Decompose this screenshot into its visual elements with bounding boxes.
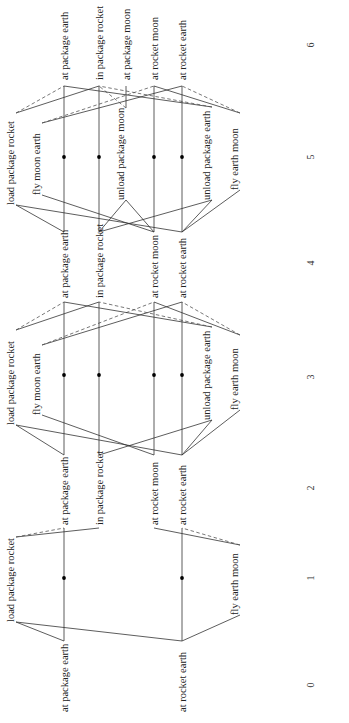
add-effect-edge	[64, 302, 212, 327]
level-number-2: 2	[305, 486, 316, 491]
fact-label-at-rocket-earth-L2: at rocket earth	[177, 464, 188, 525]
fact-label-at-rocket-moon-L6: at rocket moon	[149, 16, 160, 80]
precondition-edge	[42, 415, 154, 455]
action-label-fly-earth-moon-L3: fly earth moon	[229, 347, 240, 410]
delete-effect-edge	[42, 302, 154, 345]
action-label-load-package-rocket-L3: load package rocket	[5, 341, 16, 425]
level-number-1: 1	[305, 576, 316, 581]
action-label-fly-moon-earth-L5: fly moon earth	[31, 132, 42, 195]
action-label-unload-package-moon-L5: unload package moon	[115, 107, 126, 200]
noop-node-dot	[97, 373, 101, 377]
action-label-load-package-rocket-L5: load package rocket	[5, 121, 16, 205]
fact-label-at-rocket-earth-L6: at rocket earth	[177, 19, 188, 80]
delete-effect-edge	[182, 86, 240, 113]
fact-label-at-package-earth-L6: at package earth	[59, 11, 70, 80]
fact-label-at-package-earth-L4: at package earth	[59, 229, 70, 298]
level-number-3: 3	[305, 375, 316, 380]
level-number-4: 4	[305, 261, 316, 266]
action-label-unload-package-earth-L5: unload package earth	[201, 110, 212, 200]
noop-node-dot	[180, 373, 184, 377]
action-label-fly-earth-moon-L1: fly earth moon	[229, 552, 240, 615]
fact-label-in-package-rocket-L6: in package rocket	[94, 6, 105, 80]
precondition-edge	[99, 420, 212, 455]
action-label-load-package-rocket-L1: load package rocket	[5, 538, 16, 622]
fact-label-in-package-rocket-L2: in package rocket	[94, 451, 105, 525]
delete-effect-edge	[42, 86, 154, 123]
delete-effect-edge	[182, 302, 240, 335]
add-effect-edge	[154, 528, 240, 545]
add-effect-edge	[154, 302, 240, 335]
add-effect-edge	[16, 86, 99, 113]
level-number-5: 5	[305, 155, 316, 160]
level-axis: 0123456	[305, 43, 316, 688]
precondition-edge	[99, 200, 212, 232]
delete-effect-edge	[182, 528, 240, 545]
fact-label-at-package-moon-L6: at package moon	[121, 8, 132, 80]
level-number-6: 6	[305, 43, 316, 48]
fact-label-at-package-earth-L2: at package earth	[59, 456, 70, 525]
fact-label-in-package-rocket-L4: in package rocket	[94, 224, 105, 298]
delete-effect-edge	[99, 302, 212, 327]
noop-node-dot	[152, 155, 156, 159]
add-effect-edge	[42, 86, 182, 123]
precondition-edge	[182, 615, 240, 641]
noop-node-dot	[152, 373, 156, 377]
precondition-edge	[182, 200, 212, 232]
noop-node-dot	[180, 155, 184, 159]
fact-label-at-rocket-earth-L0: at rocket earth	[177, 651, 188, 712]
noop-node-dot	[62, 373, 66, 377]
add-effect-edge	[154, 86, 240, 113]
add-effect-edge	[64, 86, 212, 107]
fact-label-at-rocket-moon-L2: at rocket moon	[149, 461, 160, 525]
fact-label-at-rocket-moon-L4: at rocket moon	[149, 234, 160, 298]
noop-node-dot	[180, 576, 184, 580]
planning-graph: at package earthat rocket earthat packag…	[0, 0, 349, 723]
add-effect-edge	[42, 302, 182, 345]
action-label-fly-earth-moon-L5: fly earth moon	[229, 127, 240, 190]
action-label-fly-moon-earth-L3: fly moon earth	[31, 352, 42, 415]
action-label-unload-package-earth-L3: unload package earth	[201, 330, 212, 420]
fact-label-at-package-earth-L0: at package earth	[59, 643, 70, 712]
precondition-edge	[182, 420, 212, 455]
level-number-0: 0	[305, 683, 316, 688]
noop-node-dot	[62, 576, 66, 580]
noop-node-dot	[97, 155, 101, 159]
noop-node-dot	[62, 155, 66, 159]
action-labels: load package rocketfly earth moonload pa…	[5, 107, 240, 622]
fact-label-at-rocket-earth-L4: at rocket earth	[177, 237, 188, 298]
